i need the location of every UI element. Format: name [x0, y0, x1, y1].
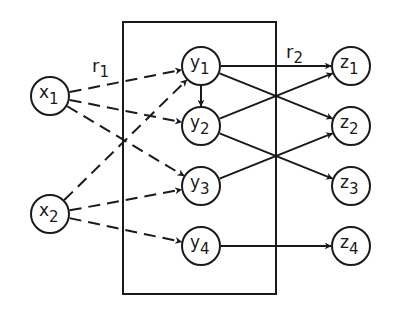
edge-x2-y1: [64, 80, 186, 200]
label-r2: r2: [286, 41, 303, 67]
edges: [64, 66, 332, 246]
diagram-canvas: r1r2 x1x2y1y2y3y4z1z2z3z4: [0, 0, 393, 317]
node-z3: z3: [332, 167, 370, 205]
node-x2: x2: [31, 195, 69, 233]
label-r1: r1: [92, 55, 109, 81]
edge-x2-y4: [70, 218, 182, 242]
node-y2: y2: [182, 107, 220, 145]
node-z2: z2: [332, 107, 370, 145]
node-z4: z4: [332, 227, 370, 265]
node-x1: x1: [31, 77, 69, 115]
node-y1: y1: [182, 47, 220, 85]
node-z1: z1: [332, 47, 370, 85]
node-y4: y4: [182, 227, 220, 265]
edge-x2-y3: [70, 190, 182, 211]
edge-x1-y1: [70, 70, 182, 92]
node-y3: y3: [182, 167, 220, 205]
mapping-diagram: r1r2 x1x2y1y2y3y4z1z2z3z4: [0, 0, 393, 317]
